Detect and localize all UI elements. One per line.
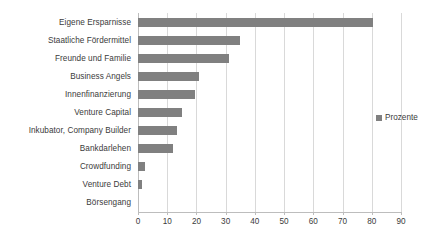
bar xyxy=(138,126,177,135)
category-axis: Eigene ErsparnisseStaatliche Fördermitte… xyxy=(0,13,136,212)
bar-row xyxy=(138,49,401,67)
x-axis-tick-label: 40 xyxy=(250,217,259,226)
x-axis-tick xyxy=(255,212,256,215)
category-label: Staatliche Fördermittel xyxy=(0,31,136,49)
x-axis-tick xyxy=(226,212,227,215)
bar xyxy=(138,144,173,153)
bar-chart: Eigene ErsparnisseStaatliche Fördermitte… xyxy=(0,0,443,247)
bar-row xyxy=(138,67,401,85)
x-axis-tick xyxy=(284,212,285,215)
category-label: Venture Capital xyxy=(0,103,136,121)
bar xyxy=(138,108,182,117)
x-axis-tick xyxy=(138,212,139,215)
x-axis-tick-label: 50 xyxy=(280,217,289,226)
bar-row xyxy=(138,31,401,49)
bar-row xyxy=(138,13,401,31)
legend-swatch-prozente xyxy=(376,115,382,121)
x-axis-tick xyxy=(167,212,168,215)
bar-row xyxy=(138,122,401,140)
legend-label-prozente: Prozente xyxy=(385,113,418,122)
bar-row xyxy=(138,194,401,212)
category-label: Bankdarlehen xyxy=(0,140,136,158)
x-axis-tick-label: 70 xyxy=(338,217,347,226)
x-axis-tick-label: 20 xyxy=(192,217,201,226)
bar-row xyxy=(138,158,401,176)
bar-series-prozente xyxy=(138,13,401,212)
x-axis-labels: 0102030405060708090 xyxy=(0,217,443,231)
x-axis-tick-label: 80 xyxy=(367,217,376,226)
bar-row xyxy=(138,103,401,121)
category-label: Eigene Ersparnisse xyxy=(0,13,136,31)
x-axis-tick-label: 30 xyxy=(221,217,230,226)
plot-area xyxy=(138,13,401,212)
x-axis-tick-label: 0 xyxy=(136,217,141,226)
x-axis-tick-label: 10 xyxy=(163,217,172,226)
category-label: Inkubator, Company Builder xyxy=(0,122,136,140)
x-axis-tick xyxy=(313,212,314,215)
bar xyxy=(138,180,142,189)
x-axis-tick xyxy=(343,212,344,215)
category-label: Freunde und Familie xyxy=(0,49,136,67)
x-axis-tick xyxy=(401,212,402,215)
bar xyxy=(138,162,145,171)
bar xyxy=(138,36,240,45)
x-axis-tick-label: 60 xyxy=(309,217,318,226)
bar-row xyxy=(138,85,401,103)
bar xyxy=(138,54,229,63)
x-axis-tick xyxy=(196,212,197,215)
bar-row xyxy=(138,140,401,158)
category-label: Innenfinanzierung xyxy=(0,85,136,103)
bar xyxy=(138,90,195,99)
x-axis-line xyxy=(138,212,401,213)
category-label: Börsengang xyxy=(0,194,136,212)
x-axis-tick-label: 90 xyxy=(396,217,405,226)
category-label: Business Angels xyxy=(0,67,136,85)
legend: Prozente xyxy=(376,113,418,122)
bar xyxy=(138,18,373,27)
category-label: Crowdfunding xyxy=(0,158,136,176)
x-axis-tick xyxy=(372,212,373,215)
bar xyxy=(138,72,199,81)
category-label: Venture Debt xyxy=(0,176,136,194)
bar-row xyxy=(138,176,401,194)
